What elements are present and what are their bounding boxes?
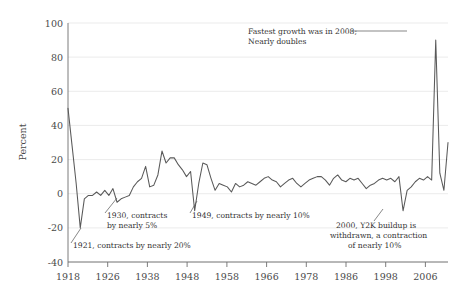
annotation-1930-line2: by nearly 5% — [107, 221, 157, 230]
x-tick-label: 1998 — [374, 271, 398, 282]
y-axis-title: Percent — [17, 123, 28, 160]
x-tick-label: 1938 — [135, 271, 159, 282]
x-tick-label: 1958 — [215, 271, 239, 282]
annotation-2000-line2: withdrawn, a contraction — [330, 231, 427, 240]
y-tick-label: 60 — [51, 86, 63, 97]
chart-container: 100 80 60 40 20 0 -20 -40 Percent 1918 — [0, 0, 455, 301]
x-tick-label: 2006 — [413, 271, 437, 282]
x-tick-label: 1966 — [255, 271, 279, 282]
annotation-2000-line1: 2000, Y2K buildup is — [336, 221, 416, 230]
line-chart: 100 80 60 40 20 0 -20 -40 Percent 1918 — [0, 0, 455, 301]
y-tick-label: 40 — [51, 120, 63, 131]
x-tick-label: 1926 — [96, 271, 120, 282]
annotation-2000-line3: of nearly 10% — [348, 241, 401, 250]
x-tick-label: 1948 — [175, 271, 199, 282]
annotation-1921-line1: 1921, contracts by nearly 20% — [73, 241, 191, 250]
annotation-2008-line1: Fastest growth was in 2008; — [248, 27, 357, 36]
y-tick-label: 20 — [51, 154, 63, 165]
y-tick-label: -20 — [48, 222, 63, 233]
x-tick-label: 1986 — [334, 271, 358, 282]
y-tick-label: 100 — [45, 18, 63, 29]
annotation-1930-line1: 1930, contracts — [107, 211, 167, 220]
x-tick-label: 1978 — [294, 271, 318, 282]
annotation-2008-line2: Nearly doubles — [248, 37, 307, 46]
y-tick-label: 0 — [57, 188, 63, 199]
annotation-1949-line1: 1949, contracts by nearly 10% — [192, 211, 310, 220]
x-tick-label: 1918 — [56, 271, 80, 282]
y-tick-label: 80 — [51, 52, 63, 63]
y-tick-label: -40 — [48, 257, 63, 268]
